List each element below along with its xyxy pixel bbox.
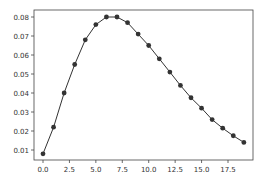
y-tick-label: 0.02 <box>13 128 29 136</box>
data-point-marker <box>241 140 246 145</box>
data-point-marker <box>83 37 88 42</box>
data-point-marker <box>157 56 162 61</box>
data-point-marker <box>146 43 151 48</box>
plot-area: 0.010.020.030.040.050.060.070.080.02.55.… <box>13 10 253 174</box>
data-point-marker <box>72 62 77 67</box>
data-point-marker <box>178 83 183 88</box>
x-tick-label: 2.5 <box>64 166 75 174</box>
data-point-marker <box>199 106 204 111</box>
data-point-marker <box>125 20 130 25</box>
data-point-marker <box>104 15 109 20</box>
data-point-marker <box>231 133 236 138</box>
y-tick-label: 0.01 <box>13 147 29 155</box>
y-tick-label: 0.03 <box>13 109 29 117</box>
x-tick-label: 5.0 <box>90 166 101 174</box>
x-tick-label: 0.0 <box>37 166 48 174</box>
x-tick-label: 7.5 <box>117 166 128 174</box>
data-point-marker <box>62 91 67 96</box>
x-tick-label: 15.0 <box>194 166 210 174</box>
data-point-marker <box>167 70 172 75</box>
y-tick-label: 0.05 <box>13 71 29 79</box>
data-point-marker <box>41 151 46 156</box>
data-point-marker <box>93 22 98 27</box>
data-point-marker <box>136 32 141 37</box>
data-point-marker <box>51 125 56 130</box>
y-tick-label: 0.07 <box>13 33 29 41</box>
x-tick-label: 10.0 <box>141 166 157 174</box>
y-tick-label: 0.04 <box>13 90 29 98</box>
line-chart: 0.010.020.030.040.050.060.070.080.02.55.… <box>0 0 268 184</box>
y-tick-label: 0.08 <box>13 14 29 22</box>
data-point-marker <box>189 95 194 100</box>
data-point-marker <box>220 126 225 131</box>
x-tick-label: 12.5 <box>167 166 183 174</box>
data-point-marker <box>115 15 120 20</box>
data-point-marker <box>210 117 215 122</box>
x-tick-label: 17.5 <box>220 166 236 174</box>
data-line <box>43 17 244 154</box>
y-tick-label: 0.06 <box>13 52 29 60</box>
